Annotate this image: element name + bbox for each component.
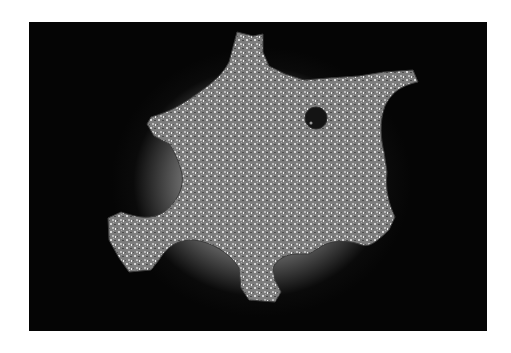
specimen-outline xyxy=(108,32,418,302)
specimen xyxy=(29,22,487,331)
photo-frame xyxy=(29,22,487,331)
specimen-hole xyxy=(305,107,327,129)
hole-highlight xyxy=(310,122,313,125)
